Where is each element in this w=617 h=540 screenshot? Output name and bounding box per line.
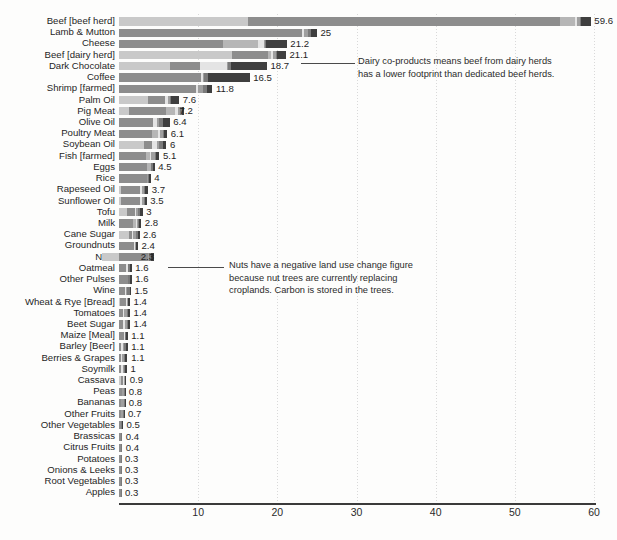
stacked-bar[interactable] bbox=[119, 118, 170, 126]
category-label: Rapeseed Oil bbox=[0, 183, 115, 194]
bar-segment bbox=[156, 152, 159, 160]
bar-segment bbox=[149, 174, 151, 182]
bar-segment bbox=[119, 107, 129, 115]
category-label: Soybean Oil bbox=[0, 138, 115, 149]
stacked-bar[interactable] bbox=[119, 410, 125, 418]
bar-value-label: 3.5 bbox=[150, 195, 163, 206]
stacked-bar[interactable] bbox=[119, 163, 155, 171]
category-label: Nuts bbox=[0, 251, 115, 262]
stacked-bar[interactable] bbox=[119, 174, 151, 182]
category-label: Shrimp [farmed] bbox=[0, 82, 115, 93]
stacked-bar[interactable] bbox=[119, 365, 127, 373]
category-label: Fish [farmed] bbox=[0, 150, 115, 161]
bar-value-label: 1.4 bbox=[134, 307, 147, 318]
bar-value-label: 6.1 bbox=[171, 128, 184, 139]
bar-segment bbox=[248, 17, 560, 25]
category-label: Brassicas bbox=[0, 430, 115, 441]
stacked-bar[interactable] bbox=[119, 309, 130, 317]
bar-segment bbox=[119, 152, 146, 160]
bar-segment bbox=[163, 118, 169, 126]
stacked-bar[interactable] bbox=[119, 298, 130, 306]
bar-segment bbox=[119, 275, 128, 283]
bar-segment bbox=[223, 40, 259, 48]
stacked-bar[interactable] bbox=[119, 354, 127, 362]
bar-segment bbox=[127, 208, 135, 216]
bar-segment bbox=[136, 242, 138, 250]
bar-segment bbox=[119, 130, 152, 138]
stacked-bar[interactable] bbox=[119, 421, 123, 429]
annotation-leader-line bbox=[301, 63, 355, 64]
stacked-bar[interactable] bbox=[119, 73, 250, 81]
stacked-bar[interactable] bbox=[119, 388, 125, 396]
bar-segment bbox=[125, 376, 126, 384]
stacked-bar[interactable] bbox=[119, 85, 212, 93]
stacked-bar[interactable] bbox=[119, 489, 121, 497]
stacked-bar[interactable] bbox=[119, 433, 122, 441]
stacked-bar[interactable] bbox=[119, 51, 286, 59]
category-label: Poultry Meat bbox=[0, 127, 115, 138]
stacked-bar[interactable] bbox=[119, 376, 126, 384]
x-tick-label-60: 60 bbox=[588, 506, 600, 518]
stacked-bar[interactable] bbox=[119, 264, 132, 272]
bar-segment bbox=[119, 264, 126, 272]
bar-segment bbox=[121, 197, 141, 205]
bar-value-label: 3 bbox=[146, 206, 151, 217]
bar-segment bbox=[129, 107, 165, 115]
stacked-bar[interactable] bbox=[119, 197, 147, 205]
stacked-bar[interactable] bbox=[119, 96, 179, 104]
annotation-text: Dairy co-products means beef from dairy … bbox=[358, 55, 558, 80]
stacked-bar[interactable] bbox=[119, 444, 122, 452]
stacked-bar[interactable] bbox=[119, 343, 128, 351]
x-axis-line bbox=[119, 503, 596, 505]
bar-segment bbox=[119, 163, 147, 171]
bar-segment bbox=[125, 388, 126, 396]
stacked-bar[interactable] bbox=[119, 287, 131, 295]
stacked-bar[interactable] bbox=[119, 186, 148, 194]
bar-segment bbox=[130, 264, 132, 272]
category-label: Palm Oil bbox=[0, 94, 115, 105]
stacked-bar[interactable] bbox=[119, 107, 184, 115]
bar-segment bbox=[207, 85, 213, 93]
category-label: Soymilk bbox=[0, 363, 115, 374]
stacked-bar[interactable] bbox=[119, 332, 128, 340]
stacked-bar[interactable] bbox=[119, 320, 130, 328]
category-label: Lamb & Mutton bbox=[0, 26, 115, 37]
category-label: Cheese bbox=[0, 37, 115, 48]
stacked-bar[interactable] bbox=[119, 17, 591, 25]
bar-segment bbox=[122, 421, 123, 429]
stacked-bar[interactable] bbox=[119, 152, 159, 160]
stacked-bar[interactable] bbox=[119, 466, 121, 474]
bar-segment bbox=[266, 40, 287, 48]
bar-segment bbox=[148, 96, 165, 104]
category-label: Bananas bbox=[0, 396, 115, 407]
bar-segment bbox=[171, 96, 179, 104]
stacked-bar[interactable] bbox=[119, 29, 317, 37]
stacked-bar[interactable] bbox=[119, 275, 132, 283]
category-label: Cane Sugar bbox=[0, 228, 115, 239]
stacked-bar[interactable] bbox=[119, 130, 167, 138]
stacked-bar[interactable] bbox=[119, 477, 121, 485]
bar-value-label: 21.2 bbox=[290, 38, 309, 49]
stacked-bar[interactable] bbox=[119, 455, 121, 463]
stacked-bar[interactable] bbox=[119, 141, 166, 149]
stacked-bar[interactable] bbox=[119, 219, 141, 227]
category-label: Other Fruits bbox=[0, 408, 115, 419]
bar-segment bbox=[121, 489, 122, 497]
bar-value-label: 3.7 bbox=[152, 184, 165, 195]
stacked-bar[interactable] bbox=[119, 208, 143, 216]
stacked-bar[interactable] bbox=[119, 231, 140, 239]
bar-segment bbox=[166, 107, 176, 115]
category-label: Peas bbox=[0, 385, 115, 396]
category-label: Rice bbox=[0, 172, 115, 183]
bar-value-label: 21.1 bbox=[290, 49, 309, 60]
bar-value-label: 0.7 bbox=[128, 408, 141, 419]
stacked-bar[interactable] bbox=[119, 399, 125, 407]
bar-value-label: 0.3 bbox=[125, 464, 138, 475]
bar-value-label: 0.5 bbox=[126, 419, 139, 430]
category-label: Oatmeal bbox=[0, 262, 115, 273]
bar-value-label: 0.3 bbox=[125, 475, 138, 486]
stacked-bar[interactable] bbox=[119, 40, 287, 48]
stacked-bar[interactable] bbox=[119, 62, 267, 70]
stacked-bar[interactable] bbox=[119, 242, 138, 250]
category-label: Maize [Meal] bbox=[0, 329, 115, 340]
